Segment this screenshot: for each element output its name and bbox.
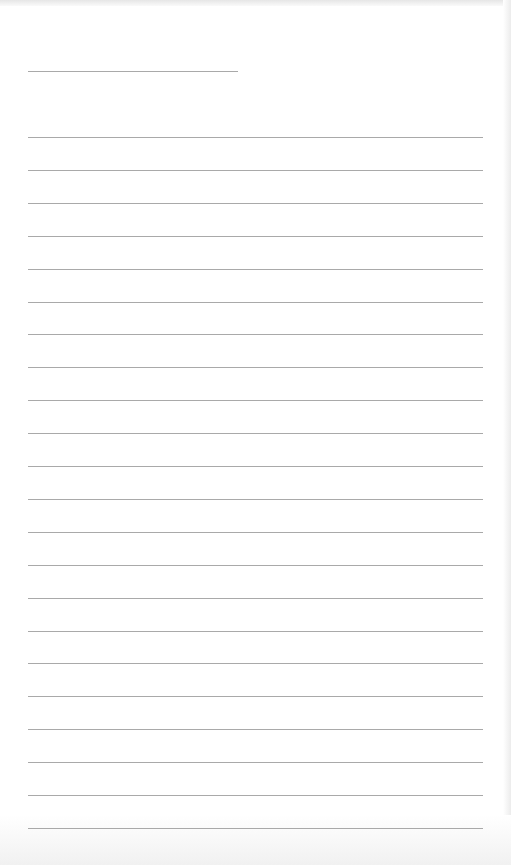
ruled-line [28, 203, 483, 204]
ruled-line [28, 631, 483, 632]
ruled-line [28, 729, 483, 730]
page-top-edge [0, 0, 511, 6]
ruled-line [28, 598, 483, 599]
ruled-line [28, 663, 483, 664]
ruled-line [28, 466, 483, 467]
ruled-line [28, 433, 483, 434]
ruled-line [28, 137, 483, 138]
ruled-line [28, 499, 483, 500]
page-bottom-shadow [0, 815, 511, 865]
page-right-edge [503, 0, 511, 865]
ruled-line [28, 367, 483, 368]
ruled-line [28, 795, 483, 796]
ruled-line [28, 236, 483, 237]
ruled-line [28, 828, 483, 829]
header-name-line [28, 71, 238, 72]
ruled-line [28, 565, 483, 566]
ruled-line [28, 532, 483, 533]
ruled-line [28, 170, 483, 171]
ruled-line [28, 400, 483, 401]
ruled-line [28, 269, 483, 270]
ruled-line [28, 696, 483, 697]
ruled-line [28, 762, 483, 763]
ruled-line [28, 302, 483, 303]
ruled-line [28, 334, 483, 335]
